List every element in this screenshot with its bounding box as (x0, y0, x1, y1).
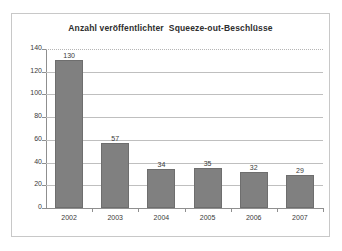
bar-value-label: 34 (158, 161, 166, 168)
bar-2006: 32 (240, 172, 268, 208)
y-tick-label: 20 (34, 180, 42, 187)
y-tick-mark (42, 185, 46, 186)
bar-2004: 34 (147, 169, 175, 208)
y-tick-label: 60 (34, 135, 42, 142)
y-tick-label: 140 (30, 44, 42, 51)
plot-area: 1305734353229 (46, 49, 323, 208)
bar-value-label: 130 (63, 52, 75, 59)
y-tick-mark (42, 140, 46, 141)
y-tick-mark (42, 117, 46, 118)
y-tick-mark (42, 49, 46, 50)
x-tick-mark (138, 208, 139, 212)
y-tick-mark (42, 208, 46, 209)
bar-2005: 35 (194, 168, 222, 208)
x-tick-mark (277, 208, 278, 212)
y-tick-mark (42, 94, 46, 95)
x-axis-label-2006: 2006 (231, 214, 277, 221)
bar-2007: 29 (286, 175, 314, 208)
bar-value-label: 35 (204, 160, 212, 167)
y-tick-label: 100 (30, 89, 42, 96)
y-tick-label: 0 (38, 203, 42, 210)
gridline (46, 140, 323, 141)
gridline (46, 185, 323, 186)
y-tick-label: 120 (30, 67, 42, 74)
chart-title: Anzahl veröffentlichter Squeeze-out-Besc… (12, 23, 329, 33)
gridline (46, 163, 323, 164)
x-tick-mark (323, 208, 324, 212)
x-tick-mark (92, 208, 93, 212)
gridline (46, 94, 323, 95)
bar-value-label: 57 (111, 135, 119, 142)
chart-figure: Anzahl veröffentlichter Squeeze-out-Besc… (11, 13, 330, 237)
gridlines (46, 49, 323, 208)
y-tick-mark (42, 163, 46, 164)
x-axis-label-2002: 2002 (46, 214, 92, 221)
x-axis-label-2007: 2007 (277, 214, 323, 221)
gridline (46, 72, 323, 73)
bar-value-label: 32 (250, 164, 258, 171)
x-axis-label-2003: 2003 (92, 214, 138, 221)
y-tick-mark (42, 72, 46, 73)
bar-value-label: 29 (296, 167, 304, 174)
x-axis-label-2004: 2004 (138, 214, 184, 221)
x-tick-mark (185, 208, 186, 212)
x-tick-mark (231, 208, 232, 212)
gridline (46, 117, 323, 118)
y-tick-label: 40 (34, 158, 42, 165)
bar-2003: 57 (101, 143, 129, 208)
bar-2002: 130 (55, 60, 83, 208)
gridline (46, 49, 323, 50)
y-tick-label: 80 (34, 112, 42, 119)
x-axis-label-2005: 2005 (185, 214, 231, 221)
